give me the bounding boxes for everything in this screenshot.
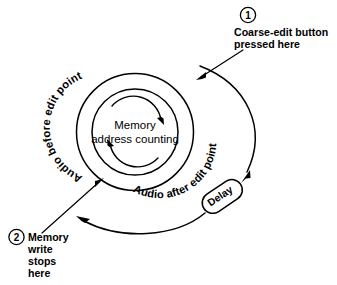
callout1-arrow-icon [196,72,206,80]
callout2-leader-line [42,182,99,233]
outer-ring-circle [77,74,194,191]
marker-1-number: 1 [245,10,251,21]
callout-2-line3: stops [28,255,56,267]
callout-marker-1: 1 [240,7,255,22]
diagram-canvas: Audio before edit point Audio after edit… [0,0,337,285]
rotation-arrow-bottom-arc [110,144,158,167]
center-label-line1: Memory [114,119,156,131]
delay-in-arrow-icon [241,170,251,183]
center-label-line2: address counting [91,133,179,145]
inner-ring-circle [92,89,178,175]
marker-2-number: 2 [14,232,20,243]
feedback-arrow-icon [76,216,90,223]
feedback-arc-lower [84,213,205,234]
callout-1-line1: Coarse-edit button [234,26,328,38]
callout-2-line2: write [27,243,53,255]
callout-marker-2: 2 [9,229,24,244]
callout-2-line4: here [28,267,50,279]
callout-2-line1: Memory [28,231,69,243]
rotation-arrow-top-arc [112,96,161,120]
clockwise-arrow-icon-top [157,117,164,125]
diagram-svg: Audio before edit point Audio after edit… [0,0,337,285]
callout-1-line2: pressed here [234,38,300,50]
ring-label-after: Audio after edit point [132,143,219,201]
callout1-leader-line [201,50,243,77]
delay-block-label: Delay [205,184,234,209]
